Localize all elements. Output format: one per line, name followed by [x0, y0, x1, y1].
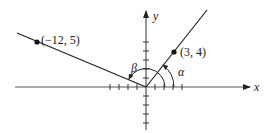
- beta-label: β: [130, 61, 137, 75]
- angle-diagram: x y (3, 4) (−12, 5) α β: [0, 0, 266, 133]
- point-3-4-marker: [171, 49, 176, 54]
- y-axis-label: y: [152, 9, 159, 23]
- alpha-label: α: [178, 65, 185, 79]
- point-neg12-5-label: (−12, 5): [41, 33, 80, 47]
- point-neg12-5-marker: [34, 39, 39, 44]
- point-3-4-label: (3, 4): [180, 45, 206, 59]
- x-axis: [15, 84, 250, 90]
- y-axis: [143, 11, 149, 130]
- x-axis-label: x: [253, 80, 260, 94]
